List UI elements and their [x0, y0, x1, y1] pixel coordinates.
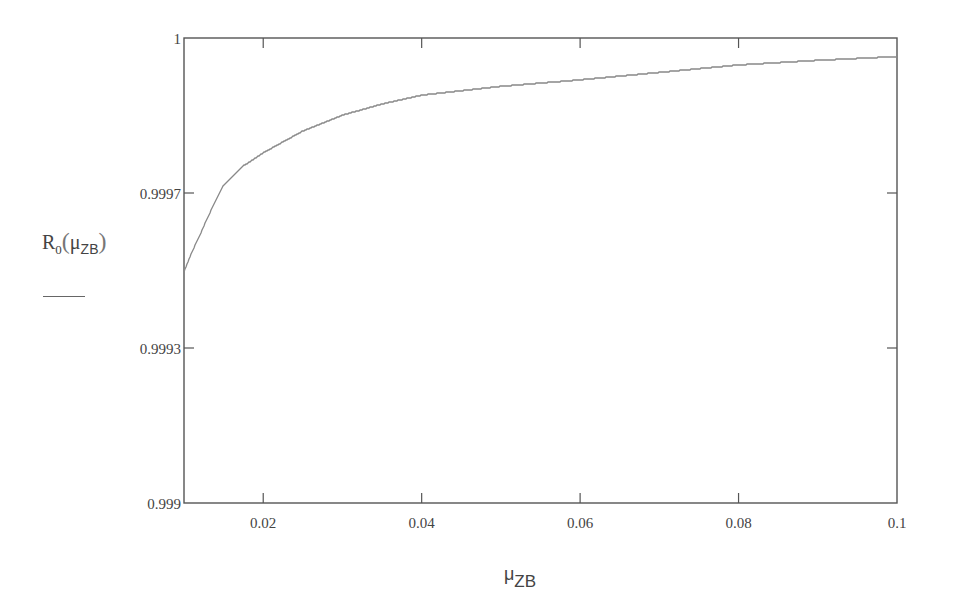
- y-axis-title-underline: [43, 296, 85, 297]
- plot-frame: [184, 38, 897, 503]
- data-series-line: [184, 57, 897, 272]
- x-axis-ticks: 0.020.040.060.080.1: [250, 38, 906, 531]
- x-tick-label: 0.1: [888, 515, 907, 531]
- y-axis-ticks: 10.99970.99930.999: [140, 31, 897, 512]
- x-tick-label: 0.08: [725, 515, 751, 531]
- x-tick-label: 0.04: [409, 515, 436, 531]
- x-axis-title: μZB: [504, 564, 536, 591]
- y-tick-label: 0.9993: [140, 341, 181, 357]
- chart: 0.020.040.060.080.1 10.99970.99930.999 μ…: [0, 0, 954, 605]
- x-tick-label: 0.06: [567, 515, 594, 531]
- y-tick-label: 0.999: [147, 496, 181, 512]
- y-axis-title: R0(μZB): [42, 228, 106, 258]
- y-tick-label: 0.9997: [140, 186, 182, 202]
- y-tick-label: 1: [174, 31, 182, 47]
- x-tick-label: 0.02: [250, 515, 276, 531]
- plot-border: [184, 38, 897, 503]
